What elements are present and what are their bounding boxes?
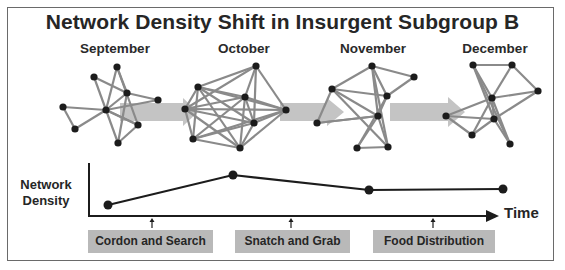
network-node — [328, 85, 335, 92]
network-node — [194, 83, 201, 90]
density-point — [499, 185, 508, 194]
event-pointer-arrowhead-icon — [150, 218, 155, 222]
network-edge — [127, 93, 158, 100]
network-edge — [446, 116, 472, 135]
network-node — [534, 87, 541, 94]
network-node — [250, 119, 257, 126]
network-node — [442, 112, 449, 119]
network-node — [154, 96, 161, 103]
event-box-food-distribution: Food Distribution — [373, 230, 495, 253]
network-node — [252, 62, 259, 69]
network-node — [114, 139, 121, 146]
network-edge — [512, 65, 538, 91]
network-edge — [63, 107, 106, 110]
network-node — [282, 106, 289, 113]
network-edge — [75, 110, 106, 129]
network-edge — [387, 77, 414, 96]
network-december — [442, 61, 541, 147]
network-node — [490, 115, 497, 122]
network-node — [236, 144, 243, 151]
network-node — [506, 140, 513, 147]
y-axis-label-line-1: Network — [12, 177, 80, 193]
network-edge — [245, 97, 286, 110]
event-pointer-arrowhead-icon — [431, 218, 436, 222]
network-edge — [63, 107, 75, 129]
x-axis-label: Time — [504, 204, 539, 221]
network-edge — [492, 65, 512, 98]
network-edge — [372, 66, 414, 77]
x-axis-arrowhead — [486, 210, 499, 222]
density-point — [229, 171, 238, 180]
network-node — [384, 143, 391, 150]
network-node — [488, 94, 495, 101]
network-edge — [254, 66, 256, 123]
network-node — [113, 63, 120, 70]
network-edge — [332, 66, 372, 89]
network-node — [123, 89, 130, 96]
event-pointer-arrowhead-icon — [289, 218, 294, 222]
event-box-cordon-and-search: Cordon and Search — [88, 230, 213, 253]
network-node — [469, 61, 476, 68]
network-node — [181, 105, 188, 112]
event-box-snatch-and-grab: Snatch and Grab — [235, 230, 350, 253]
network-node — [313, 119, 320, 126]
network-node — [90, 73, 97, 80]
density-point — [104, 201, 113, 210]
network-node — [59, 103, 66, 110]
network-node — [383, 92, 390, 99]
density-chart — [88, 163, 508, 228]
network-node — [134, 121, 141, 128]
network-node — [102, 106, 109, 113]
event-arrows — [150, 218, 436, 228]
density-line — [108, 175, 503, 205]
y-axis-label: Network Density — [12, 177, 80, 209]
network-node — [374, 112, 381, 119]
y-axis-label-line-2: Density — [12, 193, 80, 209]
network-node — [353, 144, 360, 151]
network-edge — [240, 110, 286, 148]
network-node — [241, 93, 248, 100]
network-node — [410, 73, 417, 80]
network-node — [368, 62, 375, 69]
network-node — [508, 61, 515, 68]
network-node — [468, 131, 475, 138]
network-edge — [357, 147, 388, 148]
network-node — [71, 125, 78, 132]
network-october — [181, 62, 289, 151]
progression-arrows — [120, 97, 465, 127]
density-point — [365, 186, 374, 195]
network-node — [189, 135, 196, 142]
